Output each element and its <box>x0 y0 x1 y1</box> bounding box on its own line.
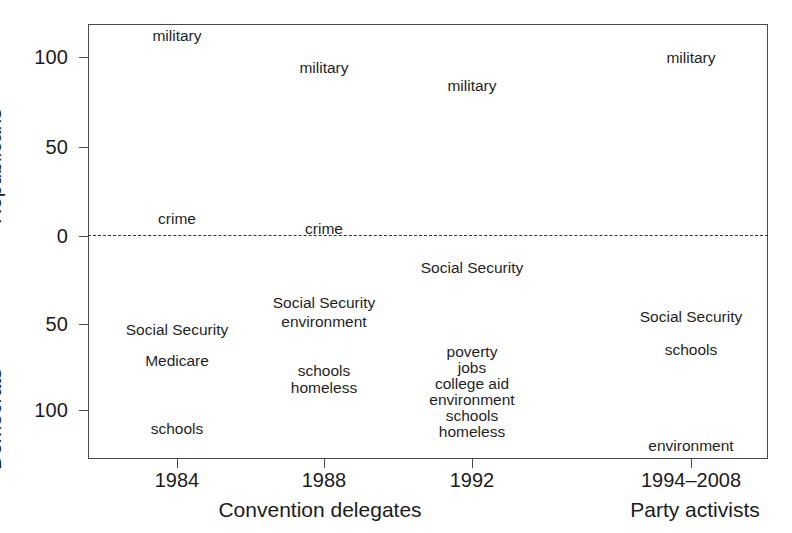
data-point-label: jobs <box>458 360 486 376</box>
x-axis-title-party-activists: Party activists <box>600 498 790 522</box>
data-point-label: homeless <box>291 380 357 396</box>
data-point-label: military <box>666 50 715 66</box>
data-point-label: schools <box>298 363 351 379</box>
data-point-label: Social Security <box>126 322 229 338</box>
x-axis-title: Convention delegates <box>0 498 640 522</box>
x-axis-tick <box>177 459 178 468</box>
y-axis-tick-label: 50 <box>8 314 68 334</box>
data-point-label: Social Security <box>273 295 376 311</box>
x-axis-tick <box>324 459 325 468</box>
zero-reference-line <box>88 235 768 236</box>
y-axis-tick-label: 100 <box>8 400 68 420</box>
x-axis-tick-label: 1994–2008 <box>641 470 741 490</box>
y-axis-tick <box>79 236 88 237</box>
y-axis-tick-label: 0 <box>8 226 68 246</box>
data-point-label: college aid <box>435 376 509 392</box>
x-axis-tick-label: 1984 <box>155 470 200 490</box>
x-axis-tick-label: 1992 <box>450 470 495 490</box>
data-point-label: environment <box>429 392 514 408</box>
data-point-label: Social Security <box>421 260 524 276</box>
data-point-label: crime <box>158 211 196 227</box>
data-point-label: schools <box>446 408 499 424</box>
data-point-label: schools <box>665 342 718 358</box>
y-axis-tick-label: 100 <box>8 47 68 67</box>
x-axis-tick <box>691 459 692 468</box>
y-axis-title-republicans: Republicans <box>0 108 6 224</box>
chart-figure: 10050050100 1984198819921994–2008 Republ… <box>0 0 792 533</box>
y-axis-tick <box>79 324 88 325</box>
data-point-label: military <box>299 60 348 76</box>
data-point-label: schools <box>151 421 204 437</box>
data-point-label: Social Security <box>640 309 743 325</box>
y-axis-tick-label: 50 <box>8 137 68 157</box>
data-point-label: homeless <box>439 424 505 440</box>
y-axis-tick <box>79 147 88 148</box>
data-point-label: military <box>152 28 201 44</box>
plot-area-frame <box>88 24 768 459</box>
data-point-label: crime <box>305 221 343 237</box>
data-point-label: environment <box>648 438 733 454</box>
y-axis-tick <box>79 57 88 58</box>
y-axis-title-democrats: Democrats <box>0 368 6 470</box>
data-point-label: military <box>447 78 496 94</box>
y-axis-tick <box>79 410 88 411</box>
data-point-label: environment <box>281 314 366 330</box>
data-point-label: Medicare <box>145 353 209 369</box>
data-point-label: poverty <box>447 344 498 360</box>
x-axis-tick-label: 1988 <box>302 470 347 490</box>
x-axis-tick <box>472 459 473 468</box>
